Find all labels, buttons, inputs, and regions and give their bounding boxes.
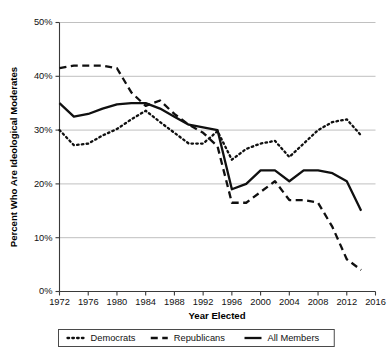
y-axis-title: Percent Who Are Ideological Moderates bbox=[8, 67, 19, 247]
legend-label: All Members bbox=[268, 333, 320, 343]
y-tick-label-0: 0% bbox=[39, 286, 52, 296]
series-line-republicans bbox=[60, 66, 362, 270]
series-line-democrats bbox=[60, 111, 362, 160]
x-tick-label-2012: 2012 bbox=[336, 297, 357, 307]
y-tick-label-10: 10% bbox=[34, 233, 53, 243]
x-tick-label-1996: 1996 bbox=[222, 297, 243, 307]
series-line-all-members bbox=[60, 103, 362, 211]
y-tick-label-40: 40% bbox=[34, 71, 53, 81]
legend-label: Democrats bbox=[91, 333, 136, 343]
y-tick-label-20: 20% bbox=[34, 179, 53, 189]
x-tick-label-1984: 1984 bbox=[135, 297, 156, 307]
x-tick-label-2016: 2016 bbox=[365, 297, 386, 307]
series-group bbox=[60, 66, 362, 270]
x-tick-label-2008: 2008 bbox=[308, 297, 329, 307]
chart-container: 0%10%20%30%40%50% 1972197619801984198819… bbox=[0, 0, 392, 353]
moderates-line-chart: 0%10%20%30%40%50% 1972197619801984198819… bbox=[0, 0, 392, 353]
x-tick-label-1976: 1976 bbox=[78, 297, 99, 307]
x-tick-label-1988: 1988 bbox=[164, 297, 185, 307]
x-tick-label-1980: 1980 bbox=[107, 297, 128, 307]
x-tick-label-2000: 2000 bbox=[250, 297, 271, 307]
x-axis: 1972197619801984198819921996200020042008… bbox=[49, 292, 386, 307]
x-tick-label-1972: 1972 bbox=[49, 297, 70, 307]
y-tick-label-30: 30% bbox=[34, 125, 53, 135]
x-tick-label-1992: 1992 bbox=[193, 297, 214, 307]
x-axis-title: Year Elected bbox=[188, 310, 245, 321]
x-tick-label-2004: 2004 bbox=[279, 297, 300, 307]
y-tick-label-50: 50% bbox=[34, 17, 53, 27]
legend: DemocratsRepublicansAll Members bbox=[59, 330, 335, 347]
y-axis: 0%10%20%30%40%50% bbox=[34, 17, 60, 296]
legend-label: Republicans bbox=[174, 333, 226, 343]
